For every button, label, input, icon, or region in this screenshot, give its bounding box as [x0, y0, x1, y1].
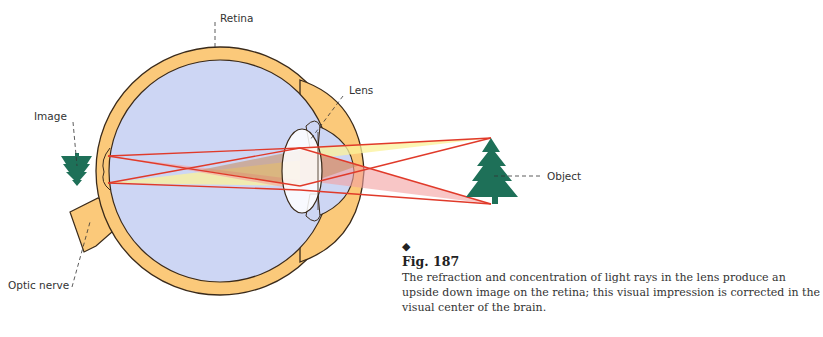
label-lens: Lens [349, 84, 373, 96]
caption-text: The refraction and concentration of ligh… [402, 270, 822, 315]
lens [282, 129, 322, 213]
object-tree-icon [466, 138, 518, 204]
label-optic-nerve: Optic nerve [8, 279, 69, 291]
bullet-icon: ◆ [402, 241, 822, 253]
figure-number: Fig. 187 [402, 254, 822, 269]
label-retina: Retina [220, 12, 253, 24]
figure-caption: ◆ Fig. 187 The refraction and concentrat… [402, 241, 822, 315]
label-object: Object [547, 170, 581, 182]
label-image: Image [34, 110, 67, 122]
